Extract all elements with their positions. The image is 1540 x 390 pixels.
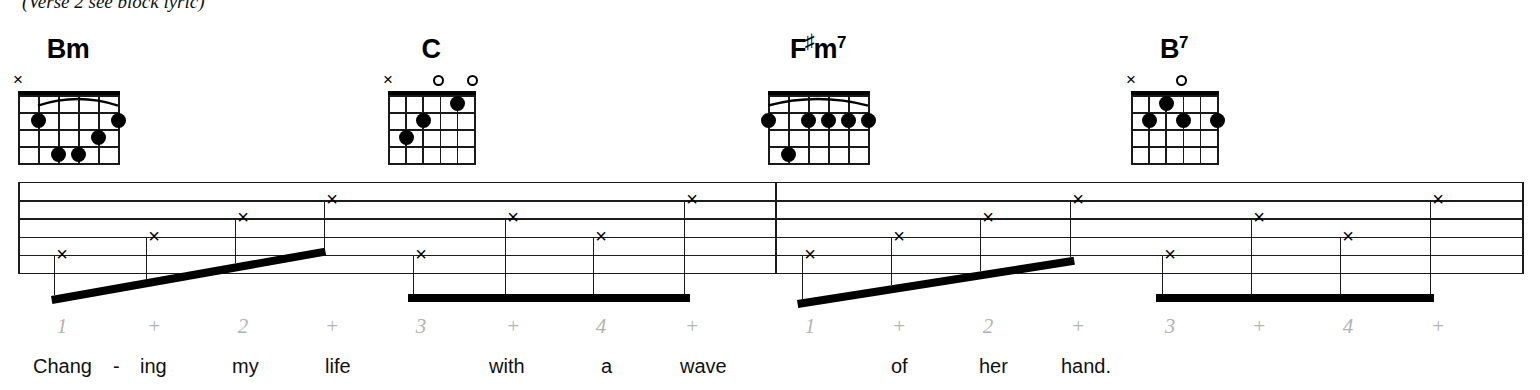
beat-count: 3 [408,316,434,337]
chord-diagram-c: C [388,40,474,173]
beat-count: + [679,316,705,337]
fret-line [768,163,870,165]
string-line [1131,95,1133,165]
fret-line [388,112,476,114]
note-stem [235,218,237,263]
muted-strum-x [145,226,163,246]
chord-diagram-bm: Bm [18,40,118,173]
lyric-word: life [325,355,351,377]
lyric-word: a [601,355,612,377]
staff-line [18,273,1522,274]
chord-diagram-fsharpm7: F♯m7 [768,40,868,173]
string-line [388,95,390,165]
beat-count: + [1246,316,1272,337]
finger-dot [399,130,414,145]
chord-markers-fsharpm7 [768,73,868,89]
note-stem [54,255,56,296]
staff-line [18,182,1522,183]
lyric-word: hand. [1061,355,1111,377]
string-line [1148,95,1150,165]
fretboard-grid-bm [18,95,118,163]
beat-count: 2 [230,316,256,337]
string-line [440,95,442,165]
note-stem [1162,255,1164,294]
chord-markers-c [388,73,474,89]
muted-string-icon [1124,73,1138,87]
barline [1522,182,1524,274]
barline [775,182,777,274]
muted-strum-x [1069,189,1087,209]
note-stem [1340,237,1342,294]
finger-dot [861,113,876,128]
sheet-music-page: (Verse 2 see block lyric) BmCF♯m7B7 1+2+… [0,0,1540,390]
eighth-note-beam [408,294,690,302]
muted-strum-x [323,189,341,209]
staff-line [18,255,1522,256]
finger-dot [1142,113,1157,128]
muted-strum-x [683,189,701,209]
string-line [1217,95,1219,165]
note-stem [802,255,804,299]
fretboard-grid-c [388,95,474,163]
beat-count: 1 [797,316,823,337]
finger-dot [1210,113,1225,128]
muted-strum-x [979,207,997,227]
fret-line [388,129,476,131]
finger-dot [450,96,465,111]
muted-strum-x [801,244,819,264]
chord-markers-b7 [1131,73,1217,89]
note-stem [593,237,595,294]
lyric-word: her [979,355,1008,377]
eighth-note-beam [1156,294,1434,302]
muted-strum-x [234,207,252,227]
finger-dot [111,113,126,128]
note-stem [413,255,415,294]
note-stem [684,200,686,294]
fret-line [1131,129,1219,131]
finger-dot [1176,113,1191,128]
beat-count: + [319,316,345,337]
beat-count: + [1065,316,1091,337]
fret-line [388,146,476,148]
chord-markers-bm [18,73,118,89]
note-stem [146,237,148,280]
string-line [1183,95,1185,165]
finger-dot [1159,96,1174,111]
fret-line [388,163,476,165]
muted-strum-x [53,244,71,264]
chord-name-b7: B7 [1131,34,1217,65]
fret-line [1131,146,1219,148]
lyric-word: - [113,355,120,377]
string-line [422,95,424,165]
lyric-word: wave [680,355,727,377]
note-stem [1430,200,1432,294]
finger-dot [416,113,431,128]
eighth-note-beam [797,257,1075,308]
string-line [1200,95,1202,165]
beat-count: 1 [49,316,75,337]
note-stem [505,218,507,294]
chord-diagram-b7: B7 [1131,40,1217,173]
barline [18,182,20,274]
fret-line [388,95,476,97]
barre-arc [18,95,122,163]
fret-line [1131,95,1219,97]
muted-string-icon [381,73,395,87]
beat-count: + [500,316,526,337]
muted-strum-x [1161,244,1179,264]
string-line [474,95,476,165]
muted-strum-x [1250,207,1268,227]
beat-count: 4 [1335,316,1361,337]
lyric-word: with [489,355,525,377]
note-stem [891,237,893,286]
muted-strum-x [412,244,430,264]
open-string-icon [467,75,478,86]
lyric-word: my [232,355,259,377]
fret-line [18,163,120,165]
chord-name-c: C [388,34,474,65]
muted-strum-x [504,207,522,227]
beat-count: 4 [588,316,614,337]
note-stem [1070,200,1072,257]
open-string-icon [433,75,444,86]
muted-strum-x [1429,189,1447,209]
